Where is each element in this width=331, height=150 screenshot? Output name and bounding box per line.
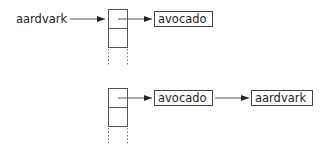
top-chain-node-avocado: avocado bbox=[154, 11, 213, 27]
bottom-chain-node-avocado: avocado bbox=[154, 90, 213, 106]
bottom-bucket-array bbox=[109, 89, 128, 146]
top-bucket-array bbox=[109, 10, 128, 67]
bottom-chain-node-aardvark: aardvark bbox=[251, 90, 313, 106]
top-key-label: aardvark bbox=[16, 12, 67, 26]
